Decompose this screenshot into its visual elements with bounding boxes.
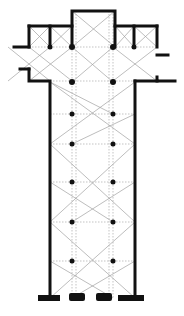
church-floor-plan (0, 0, 184, 316)
grid-lines (29, 11, 157, 298)
